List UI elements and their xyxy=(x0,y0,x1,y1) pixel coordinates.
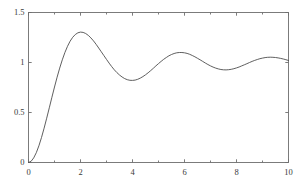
plot-area xyxy=(0,0,300,189)
x-tick-label: 6 xyxy=(171,168,199,177)
figure-canvas: 00.511.5 0246810 xyxy=(0,0,300,189)
y-tick-label: 0.5 xyxy=(14,108,25,117)
y-tick-label: 1 xyxy=(20,58,24,67)
x-tick-label: 10 xyxy=(275,168,301,177)
plot-box-border xyxy=(29,13,289,163)
x-tick-label: 2 xyxy=(67,168,95,177)
y-tick-label: 1.5 xyxy=(14,8,25,17)
axes-box xyxy=(29,13,289,163)
x-tick-label: 4 xyxy=(119,168,147,177)
x-tick-label: 8 xyxy=(223,168,251,177)
y-tick-label: 0 xyxy=(20,158,24,167)
x-tick-label: 0 xyxy=(15,168,43,177)
